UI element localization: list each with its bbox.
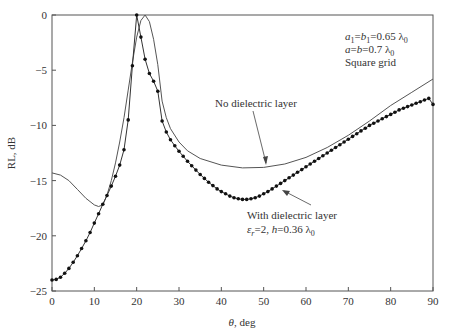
data-point-with-dielectric [393, 110, 397, 114]
data-point-with-dielectric [122, 148, 126, 152]
chart: 0102030405060708090 0−5−10−15−20−25 θ, d… [0, 0, 453, 332]
data-point-with-dielectric [338, 143, 342, 147]
data-point-with-dielectric [313, 160, 317, 164]
data-point-with-dielectric [334, 146, 338, 150]
data-point-with-dielectric [63, 272, 67, 276]
data-point-with-dielectric [304, 165, 308, 169]
y-tick-label: −5 [35, 64, 47, 76]
data-point-with-dielectric [402, 107, 406, 111]
data-point-with-dielectric [54, 278, 58, 282]
data-point-with-dielectric [88, 231, 92, 235]
data-point-with-dielectric [173, 144, 177, 148]
data-point-with-dielectric [292, 173, 296, 177]
data-point-with-dielectric [105, 194, 109, 198]
data-point-with-dielectric [431, 103, 435, 107]
data-point-with-dielectric [80, 247, 84, 251]
data-point-with-dielectric [249, 197, 253, 201]
x-tick-label: 90 [428, 295, 440, 307]
data-point-with-dielectric [253, 196, 257, 200]
y-tick-label: −20 [30, 230, 48, 242]
x-tick-label: 50 [258, 295, 270, 307]
data-point-with-dielectric [287, 176, 291, 180]
data-point-with-dielectric [143, 57, 147, 61]
data-point-with-dielectric [76, 254, 80, 258]
data-point-with-dielectric [389, 113, 393, 117]
data-point-with-dielectric [279, 182, 283, 186]
data-point-with-dielectric [131, 64, 135, 68]
x-tick-label: 40 [216, 295, 228, 307]
data-point-with-dielectric [71, 261, 75, 265]
data-point-with-dielectric [101, 203, 105, 207]
data-point-with-dielectric [423, 98, 427, 102]
data-point-with-dielectric [232, 196, 236, 200]
data-point-with-dielectric [351, 135, 355, 139]
annotation-arrow-no-dielectric [253, 111, 266, 163]
data-point-with-dielectric [385, 115, 389, 119]
data-point-with-dielectric [203, 177, 207, 181]
data-point-with-dielectric [148, 72, 152, 76]
data-point-with-dielectric [194, 168, 198, 172]
data-point-with-dielectric [152, 79, 156, 83]
data-point-with-dielectric [84, 239, 88, 243]
data-point-with-dielectric [283, 179, 287, 183]
data-point-with-dielectric [376, 119, 380, 123]
data-point-with-dielectric [177, 150, 181, 154]
x-axis-ticks: 0102030405060708090 [49, 287, 439, 307]
x-tick-label: 70 [343, 295, 355, 307]
data-point-with-dielectric [181, 155, 185, 159]
data-point-with-dielectric [237, 197, 241, 201]
data-point-with-dielectric [266, 190, 270, 194]
data-point-with-dielectric [372, 121, 376, 125]
data-point-with-dielectric [190, 164, 194, 168]
annotation-no-dielectric: No dielectric layer [215, 97, 297, 109]
data-point-with-dielectric [321, 154, 325, 158]
data-point-with-dielectric [114, 174, 118, 178]
y-axis-label: RL, dB [5, 137, 17, 169]
x-tick-label: 10 [89, 295, 101, 307]
x-tick-label: 20 [131, 295, 143, 307]
data-point-with-dielectric [275, 184, 279, 188]
data-point-with-dielectric [241, 198, 245, 202]
y-tick-label: −10 [30, 119, 48, 131]
data-point-with-dielectric [359, 129, 363, 133]
data-point-with-dielectric [330, 148, 334, 152]
data-point-with-dielectric [97, 212, 101, 216]
data-point-with-dielectric [169, 138, 173, 142]
data-point-with-dielectric [258, 194, 262, 198]
data-point-with-dielectric [160, 119, 164, 123]
x-tick-label: 30 [174, 295, 186, 307]
y-tick-label: −15 [30, 175, 48, 187]
x-tick-label: 0 [49, 295, 55, 307]
data-point-with-dielectric [262, 192, 266, 196]
data-point-with-dielectric [325, 151, 329, 155]
data-point-with-dielectric [215, 187, 219, 191]
data-point-with-dielectric [270, 187, 274, 191]
data-point-with-dielectric [220, 190, 224, 194]
data-point-with-dielectric [211, 184, 215, 188]
data-point-with-dielectric [368, 124, 372, 128]
x-tick-label: 80 [385, 295, 397, 307]
data-point-with-dielectric [364, 126, 368, 130]
data-point-with-dielectric [110, 184, 114, 188]
data-point-with-dielectric [245, 198, 249, 202]
param-line-3: Square grid [345, 56, 397, 68]
data-point-with-dielectric [224, 192, 228, 196]
data-point-with-dielectric [317, 157, 321, 161]
data-point-with-dielectric [93, 221, 97, 225]
data-point-with-dielectric [397, 108, 401, 112]
data-point-with-dielectric [406, 105, 410, 109]
data-point-with-dielectric [300, 168, 304, 172]
data-point-with-dielectric [355, 132, 359, 136]
annotation-with-dielectric: With dielectric layer [247, 209, 337, 221]
arrowhead-with-dielectric [282, 190, 290, 196]
data-point-with-dielectric [207, 181, 211, 185]
y-tick-label: 0 [42, 9, 48, 21]
data-point-with-dielectric [186, 160, 190, 164]
data-point-with-dielectric [59, 275, 63, 279]
data-point-with-dielectric [156, 89, 160, 93]
data-point-with-dielectric [67, 267, 71, 271]
data-point-with-dielectric [198, 173, 202, 177]
data-point-with-dielectric [135, 13, 139, 17]
data-point-with-dielectric [347, 137, 351, 141]
data-point-with-dielectric [165, 130, 169, 134]
